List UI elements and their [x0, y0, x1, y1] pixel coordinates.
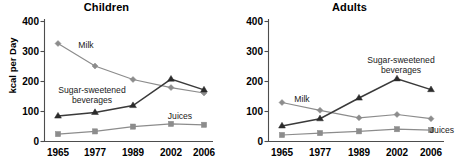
annotation-ssb-line2: beverages — [381, 65, 421, 75]
annotation-milk: Milk — [294, 94, 310, 104]
x-tick-labels: 1965 1977 1989 2002 2006 — [47, 147, 216, 158]
y-tick-200: 200 — [22, 76, 39, 87]
annotation-juices: Juices — [168, 111, 192, 121]
x-tick-1965: 1965 — [271, 147, 294, 158]
x-tick-1989: 1989 — [348, 147, 371, 158]
plot-area-children: 400 300 200 100 0 1965 1977 1989 2002 20… — [0, 0, 229, 165]
y-tick-0: 0 — [257, 136, 263, 147]
x-tick-2002: 2002 — [386, 147, 409, 158]
series-markers-juices — [55, 121, 206, 136]
annotation-ssb-line1: Sugar-sweetened — [58, 85, 126, 95]
plot-area-adults: 400 300 200 100 0 1965 1977 1989 2002 20… — [229, 0, 458, 165]
x-tick-1977: 1977 — [84, 147, 107, 158]
y-tick-400: 400 — [246, 16, 263, 27]
axis-lines — [45, 19, 214, 142]
y-tick-marks — [41, 22, 45, 142]
y-tick-100: 100 — [246, 106, 263, 117]
y-tick-labels: 400 300 200 100 0 — [22, 16, 39, 147]
annotation-ssb-line1: Sugar-sweetened — [367, 55, 435, 65]
x-tick-1977: 1977 — [309, 147, 332, 158]
chart-panel-children: Children kcal per Day 400 300 200 100 0 — [0, 0, 229, 165]
annotation-ssb-line2: beverages — [72, 95, 112, 105]
y-tick-200: 200 — [246, 76, 263, 87]
chart-panel-adults: Adults 400 300 200 100 0 1965 1977 1 — [229, 0, 458, 165]
x-tick-1989: 1989 — [122, 147, 145, 158]
x-tick-2006: 2006 — [193, 147, 216, 158]
series-line-milk — [282, 103, 431, 119]
beverage-calories-figure: Children kcal per Day 400 300 200 100 0 — [0, 0, 458, 165]
x-tick-labels: 1965 1977 1989 2002 2006 — [271, 147, 443, 158]
y-tick-marks — [265, 22, 269, 142]
y-tick-400: 400 — [22, 16, 39, 27]
y-tick-100: 100 — [22, 106, 39, 117]
y-tick-300: 300 — [246, 46, 263, 57]
y-tick-0: 0 — [33, 136, 39, 147]
x-tick-2002: 2002 — [160, 147, 183, 158]
x-tick-2006: 2006 — [420, 147, 443, 158]
series-markers-juices — [279, 127, 433, 138]
y-tick-labels: 400 300 200 100 0 — [246, 16, 263, 147]
annotation-milk: Milk — [78, 40, 94, 50]
annotation-juices: Juices — [430, 125, 454, 135]
x-tick-1965: 1965 — [47, 147, 70, 158]
y-tick-300: 300 — [22, 46, 39, 57]
